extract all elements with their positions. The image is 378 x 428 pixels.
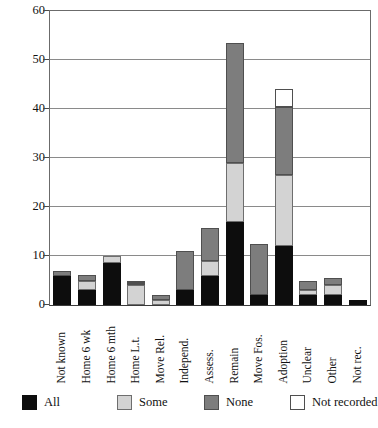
bar-segment-none[interactable] — [201, 228, 219, 261]
bar-segment-some[interactable] — [275, 175, 293, 246]
legend-swatch-icon — [22, 395, 37, 410]
bar-segment-all[interactable] — [349, 300, 367, 305]
legend-swatch-icon — [290, 395, 305, 410]
bar-segment-all[interactable] — [201, 276, 219, 305]
bar-segment-some[interactable] — [103, 256, 121, 263]
x-tick-label: Unclear — [302, 347, 314, 383]
x-tick-label: Not rec. — [351, 346, 363, 383]
chart-legend: AllSomeNoneNot recorded — [22, 392, 362, 414]
bar-segment-none[interactable] — [275, 107, 293, 176]
y-tick-label: 20 — [5, 200, 45, 213]
x-tick-label-wrap: Not rec. — [351, 308, 365, 372]
x-tick-label-wrap: Other — [326, 308, 340, 372]
bar-group[interactable] — [226, 11, 244, 305]
bar-segment-all[interactable] — [53, 276, 71, 305]
legend-item[interactable]: Some — [117, 392, 167, 412]
bar-segment-some[interactable] — [152, 300, 170, 305]
y-tick-mark — [43, 108, 49, 109]
bar-group[interactable] — [201, 11, 219, 305]
bar-segment-some[interactable] — [226, 163, 244, 222]
x-tick-label: Home 6 wk — [80, 330, 92, 384]
x-tick-label: Not known — [56, 332, 68, 383]
bar-group[interactable] — [299, 11, 317, 305]
legend-item[interactable]: All — [22, 392, 60, 412]
y-tick-mark — [43, 206, 49, 207]
y-tick-label: 30 — [5, 151, 45, 164]
bar-segment-none[interactable] — [176, 251, 194, 290]
x-tick-label-wrap: Move Fos. — [252, 308, 266, 372]
bar-segment-some[interactable] — [127, 285, 145, 305]
legend-swatch-icon — [204, 395, 219, 410]
bar-group[interactable] — [250, 11, 268, 305]
y-tick-mark — [43, 10, 49, 11]
legend-item[interactable]: None — [204, 392, 253, 412]
bar-group[interactable] — [324, 11, 342, 305]
x-tick-label-wrap: Unclear — [301, 308, 315, 372]
bar-segment-notrec[interactable] — [127, 281, 145, 283]
y-tick-label: 0 — [5, 298, 45, 311]
bar-segment-all[interactable] — [250, 295, 268, 305]
bar-segment-none[interactable] — [250, 244, 268, 295]
bar-segment-all[interactable] — [324, 295, 342, 305]
bar-segment-all[interactable] — [275, 246, 293, 305]
bar-segment-some[interactable] — [201, 261, 219, 276]
x-tick-label: Home L.t. — [130, 337, 142, 384]
y-tick-label: 40 — [5, 102, 45, 115]
x-tick-label-wrap: Independ. — [178, 308, 192, 372]
legend-label: Some — [139, 396, 167, 409]
x-tick-label-wrap: Move Rel. — [154, 308, 168, 372]
bar-segment-none[interactable] — [324, 278, 342, 285]
legend-label: Not recorded — [312, 396, 378, 409]
bar-segment-all[interactable] — [226, 222, 244, 305]
bar-segment-none[interactable] — [226, 43, 244, 163]
y-tick-mark — [43, 255, 49, 256]
y-tick-mark — [43, 157, 49, 158]
x-tick-label-wrap: Assess. — [203, 308, 217, 372]
bar-segment-some[interactable] — [324, 285, 342, 295]
bar-segment-none[interactable] — [127, 283, 145, 285]
y-tick-mark — [43, 304, 49, 305]
x-tick-label: Adoption — [277, 340, 289, 383]
bar-segment-some[interactable] — [78, 281, 96, 291]
x-tick-label: Move Rel. — [154, 335, 166, 384]
bar-group[interactable] — [152, 11, 170, 305]
bar-segment-all[interactable] — [176, 290, 194, 305]
legend-label: All — [44, 396, 60, 409]
x-tick-label-wrap: Adoption — [277, 308, 291, 372]
x-tick-label-wrap: Remain — [228, 308, 242, 372]
y-tick-label: 50 — [5, 53, 45, 66]
bar-segment-none[interactable] — [299, 281, 317, 291]
bar-segment-all[interactable] — [103, 263, 121, 305]
x-tick-label: Remain — [228, 348, 240, 384]
y-tick-label: 10 — [5, 249, 45, 262]
x-tick-label-wrap: Home L.t. — [129, 308, 143, 372]
x-tick-label: Other — [327, 357, 339, 383]
y-tick-label: 60 — [5, 4, 45, 17]
x-tick-label: Move Fos. — [253, 334, 265, 383]
bar-group[interactable] — [349, 11, 367, 305]
bar-segment-some[interactable] — [299, 290, 317, 295]
x-tick-label-wrap: Not known — [55, 308, 69, 372]
x-tick-label-wrap: Home 6 mth — [105, 308, 119, 372]
bar-group[interactable] — [176, 11, 194, 305]
bar-segment-all[interactable] — [299, 295, 317, 305]
bar-group[interactable] — [78, 11, 96, 305]
bar-group[interactable] — [127, 11, 145, 305]
x-tick-label: Home 6 mth — [105, 326, 117, 384]
legend-swatch-icon — [117, 395, 132, 410]
y-tick-mark — [43, 59, 49, 60]
bar-segment-notrec[interactable] — [275, 89, 293, 106]
bar-group[interactable] — [53, 11, 71, 305]
bar-group[interactable] — [103, 11, 121, 305]
bar-segment-none[interactable] — [78, 275, 96, 281]
x-axis-labels: Not knownHome 6 wkHome 6 mthHome L.t.Mov… — [50, 308, 370, 374]
bar-segment-none[interactable] — [152, 295, 170, 300]
legend-label: None — [226, 396, 253, 409]
legend-item[interactable]: Not recorded — [290, 392, 378, 412]
bar-segment-all[interactable] — [78, 290, 96, 305]
bars-layer — [50, 11, 370, 305]
x-tick-label: Assess. — [204, 349, 216, 383]
bar-segment-none[interactable] — [53, 271, 71, 276]
bar-group[interactable] — [275, 11, 293, 305]
